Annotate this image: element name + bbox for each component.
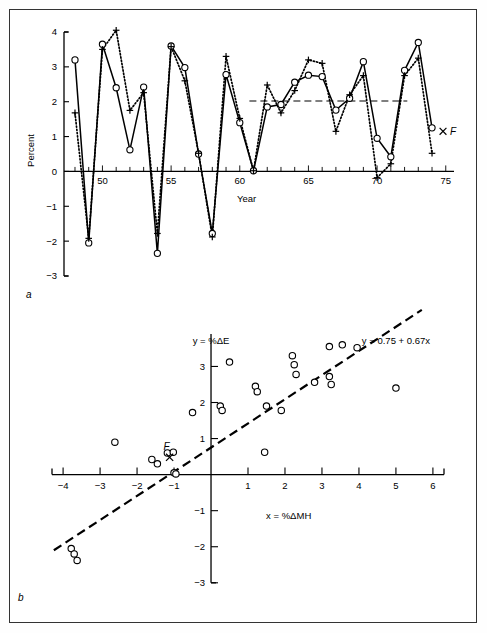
panel-a-marker-circle xyxy=(182,64,188,70)
panel-b-x-tick-label: −2 xyxy=(132,480,143,491)
panel-a-marker-circle xyxy=(292,79,298,85)
panel-b-data-point xyxy=(154,461,160,467)
panel-a-marker-circle xyxy=(319,74,325,80)
panel-a-marker-plus xyxy=(223,53,230,60)
panel-b-x-axis-title: x = %ΔMH xyxy=(266,510,311,521)
panel-a-x-tick-label: 75 xyxy=(440,175,451,186)
panel-a-marker-plus xyxy=(333,128,340,135)
panel-a-label: a xyxy=(26,289,32,300)
panel-a-marker-plus xyxy=(319,60,326,67)
panel-b-y-tick-label: −2 xyxy=(194,541,205,552)
panel-a-annotations: F xyxy=(440,126,457,137)
panel-a-f-label: F xyxy=(450,126,457,137)
panel-b-data-point xyxy=(112,439,118,445)
panel-a-marker-circle xyxy=(429,125,435,131)
panel-a-marker-circle xyxy=(141,84,147,90)
panel-a-marker-plus xyxy=(72,110,79,117)
panel-b-y-tick-label: 3 xyxy=(200,361,205,372)
panel-b-data-point xyxy=(149,456,155,462)
panel-b-scatter: −4−3−2−1123456−3−2−1123 F y = %ΔE x = %Δ… xyxy=(14,310,464,610)
panel-b-data-point xyxy=(71,551,77,557)
panel-b-svg: −4−3−2−1123456−3−2−1123 F y = %ΔE x = %Δ… xyxy=(14,310,464,610)
figure-container: −3−2−101234505560657075 F Percent Year a… xyxy=(0,0,487,633)
panel-b-data-point xyxy=(219,407,225,413)
panel-b-x-tick-label: 3 xyxy=(319,480,324,491)
panel-a-series-plus xyxy=(75,30,432,238)
panel-a-svg: −3−2−101234505560657075 F Percent Year a xyxy=(14,14,464,309)
panel-a-f-marker xyxy=(440,128,447,135)
panel-a-marker-circle xyxy=(223,71,229,77)
panel-a-y-tick-label: −3 xyxy=(46,270,57,281)
panel-a-marker-circle xyxy=(113,85,119,91)
panel-b-x-tick-label: 4 xyxy=(356,480,361,491)
panel-a-marker-circle xyxy=(305,72,311,78)
panel-b-data-point xyxy=(291,361,297,367)
panel-b-f-label: F xyxy=(164,441,171,452)
panel-a-marker-circle xyxy=(264,104,270,110)
panel-b-data-point xyxy=(328,381,334,387)
panel-a-y-tick-label: −2 xyxy=(46,236,57,247)
panel-b-data-point xyxy=(311,379,317,385)
panel-b-y-tick-label: −1 xyxy=(194,505,205,516)
panel-a-marker-plus xyxy=(264,82,271,89)
regression-equation-label: y = 0.75 + 0.67x xyxy=(362,335,430,346)
panel-b-data-point xyxy=(326,373,332,379)
panel-a-marker-circle xyxy=(278,101,284,107)
panel-b-data-point xyxy=(189,409,195,415)
panel-a-x-tick-label: 60 xyxy=(234,175,245,186)
panel-a-y-tick-label: 3 xyxy=(52,61,57,72)
panel-b-data-point xyxy=(339,342,345,348)
panel-a-series-lines xyxy=(75,30,432,253)
panel-a-marker-circle xyxy=(388,154,394,160)
panel-a-series-markers xyxy=(72,27,436,256)
panel-b-data-point xyxy=(278,407,284,413)
panel-a-marker-circle xyxy=(127,147,133,153)
panel-a-x-axis-title: Year xyxy=(237,193,256,204)
panel-b-x-tick-label: 1 xyxy=(245,480,250,491)
panel-b-x-tick-label: −4 xyxy=(58,480,69,491)
panel-a-y-tick-label: −1 xyxy=(46,201,57,212)
panel-b-data-point xyxy=(261,449,267,455)
panel-a-marker-plus xyxy=(429,150,436,157)
panel-b-label: b xyxy=(18,592,24,603)
panel-b-y-tick-label: 1 xyxy=(200,433,205,444)
panel-a-marker-circle xyxy=(154,250,160,256)
panel-a-y-axis-title: Percent xyxy=(25,134,36,167)
panel-b-axes xyxy=(52,334,444,583)
panel-a-y-tick-label: 4 xyxy=(52,26,57,37)
panel-a-marker-circle xyxy=(360,59,366,65)
panel-b-x-tick-label: −3 xyxy=(95,480,106,491)
panel-b-x-tick-label: 6 xyxy=(430,480,435,491)
panel-b-y-tick-label: −3 xyxy=(194,577,205,588)
panel-b-data-point xyxy=(393,385,399,391)
panel-b-data-point xyxy=(170,449,176,455)
panel-b-data-point xyxy=(226,359,232,365)
panel-a-marker-circle xyxy=(374,135,380,141)
panel-b-y-tick-label: 2 xyxy=(200,397,205,408)
panel-a-y-tick-label: 2 xyxy=(52,96,57,107)
panel-b-data-points xyxy=(68,342,399,564)
panel-b-data-point xyxy=(263,403,269,409)
panel-a-marker-plus xyxy=(305,57,312,64)
panel-b-data-point xyxy=(173,471,179,477)
panel-b-data-point xyxy=(293,371,299,377)
panel-b-data-point xyxy=(354,345,360,351)
panel-b-x-tick-label: −1 xyxy=(169,480,180,491)
panel-a-marker-circle xyxy=(72,57,78,63)
panel-b-data-point xyxy=(254,388,260,394)
panel-a-x-tick-label: 50 xyxy=(97,175,108,186)
panel-b-data-point xyxy=(326,343,332,349)
panel-a-marker-circle xyxy=(333,107,339,113)
panel-a-x-tick-label: 65 xyxy=(303,175,314,186)
panel-b-data-point xyxy=(74,557,80,563)
panel-a-y-tick-label: 0 xyxy=(52,166,57,177)
panel-b-x-tick-label: 2 xyxy=(282,480,287,491)
panel-a-y-tick-label: 1 xyxy=(52,131,57,142)
panel-a-timeseries: −3−2−101234505560657075 F Percent Year a xyxy=(14,14,464,309)
panel-b-data-point xyxy=(289,352,295,358)
panel-b-y-axis-title: y = %ΔE xyxy=(193,335,230,346)
panel-a-x-tick-label: 55 xyxy=(166,175,177,186)
panel-a-marker-circle xyxy=(415,39,421,45)
panel-b-x-tick-label: 5 xyxy=(393,480,398,491)
